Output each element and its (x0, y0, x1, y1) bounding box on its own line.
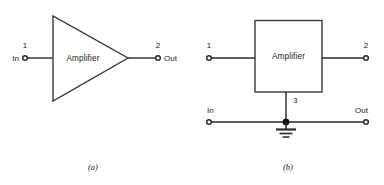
panel-a-output-label: Out (164, 54, 178, 63)
panel-a-port-1-number: 1 (23, 41, 28, 50)
panel-a-group: 1 2 In Out Amplifier (a) (12, 16, 177, 172)
amplifier-two-port-figure: 1 2 In Out Amplifier (a) Amplifier 1 2 (0, 0, 384, 185)
circuit-canvas: 1 2 In Out Amplifier (a) Amplifier 1 2 (0, 0, 384, 185)
panel-b-group: Amplifier 1 2 3 (207, 21, 369, 173)
panel-b-port-1-number: 1 (207, 41, 212, 50)
panel-a-port-1-terminal[interactable] (23, 56, 28, 61)
panel-b-output-label: Out (355, 106, 369, 115)
panel-b-port-2-terminal[interactable] (364, 56, 369, 61)
panel-a-port-2-terminal[interactable] (156, 56, 161, 61)
panel-a-input-label: In (12, 54, 19, 63)
panel-b-amplifier-label: Amplifier (272, 52, 305, 61)
earth-ground-icon (276, 122, 296, 137)
panel-b-caption: (b) (283, 162, 293, 172)
panel-b-input-label: In (207, 106, 214, 115)
panel-b-output-terminal[interactable] (364, 120, 369, 125)
panel-b-port-2-number: 2 (364, 41, 369, 50)
panel-a-port-2-number: 2 (156, 41, 161, 50)
panel-a-amplifier-label: Amplifier (66, 54, 99, 63)
panel-a-caption: (a) (88, 162, 98, 172)
panel-b-port-3-number: 3 (293, 96, 298, 105)
panel-b-port-1-terminal[interactable] (207, 56, 212, 61)
panel-b-input-terminal[interactable] (207, 120, 212, 125)
